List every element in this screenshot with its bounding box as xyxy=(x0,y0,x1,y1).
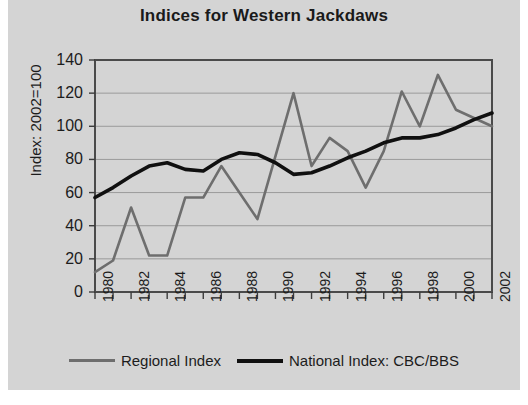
x-axis-tick-label: 1994 xyxy=(354,271,368,302)
y-axis-tick-label: 120 xyxy=(37,85,83,101)
x-axis-tick-label: 2000 xyxy=(462,271,476,302)
legend-label-regional: Regional Index xyxy=(121,352,221,369)
legend-item-national: National Index: CBC/BBS xyxy=(237,352,459,369)
legend-swatch-regional-icon xyxy=(69,359,115,362)
y-axis-tick-label: 20 xyxy=(37,251,83,267)
x-axis-tick-label: 1988 xyxy=(245,271,259,302)
x-axis-tick-label: 1984 xyxy=(173,271,187,302)
x-axis-tick-label: 1998 xyxy=(426,271,440,302)
y-axis-tick-label: 140 xyxy=(37,52,83,68)
x-axis-tick-label: 1980 xyxy=(101,271,115,302)
y-axis-tick-label: 100 xyxy=(37,118,83,134)
legend-label-national: National Index: CBC/BBS xyxy=(289,352,459,369)
x-axis-tick-label: 1982 xyxy=(137,271,151,302)
legend-item-regional: Regional Index xyxy=(69,352,221,369)
y-axis-tick-label: 60 xyxy=(37,185,83,201)
chart-legend: Regional Index National Index: CBC/BBS xyxy=(8,352,520,369)
legend-swatch-national-icon xyxy=(237,359,283,363)
chart-figure: Indices for Western Jackdaws Index: 2002… xyxy=(8,0,520,390)
x-axis-tick-label: 2002 xyxy=(498,271,512,302)
x-axis-tick-label: 1990 xyxy=(281,271,295,302)
x-axis-tick-label: 1992 xyxy=(318,271,332,302)
y-axis-tick-label: 40 xyxy=(37,218,83,234)
y-axis-tick-label: 80 xyxy=(37,151,83,167)
plot-svg xyxy=(8,0,520,390)
y-axis-tick-label: 0 xyxy=(37,284,83,300)
x-axis-tick-label: 1986 xyxy=(209,271,223,302)
plot-area: 0204060801001201401980198219841986198819… xyxy=(8,0,520,390)
x-axis-tick-label: 1996 xyxy=(390,271,404,302)
